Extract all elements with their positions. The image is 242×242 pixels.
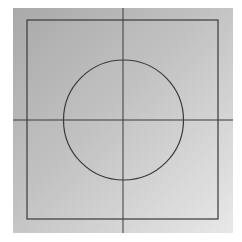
diagram-svg xyxy=(0,0,242,242)
